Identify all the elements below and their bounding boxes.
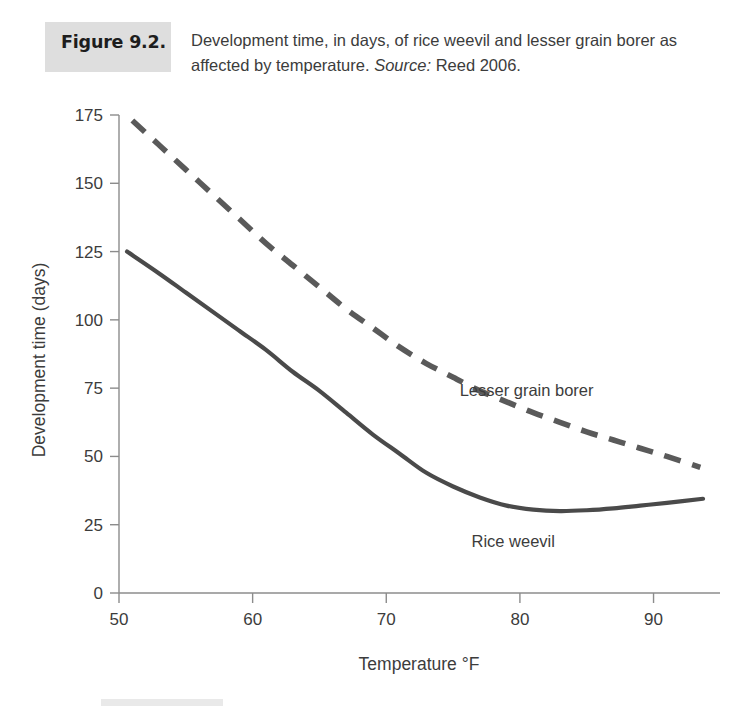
x-tick-label: 90 bbox=[644, 610, 663, 629]
x-axis: 5060708090 bbox=[110, 593, 720, 629]
y-tick-label: 0 bbox=[94, 584, 103, 603]
page-artifact bbox=[101, 699, 223, 706]
series-line-rice-weevil bbox=[127, 252, 703, 512]
y-tick-label: 50 bbox=[84, 447, 103, 466]
x-tick-label: 80 bbox=[510, 610, 529, 629]
y-tick-label: 25 bbox=[84, 516, 103, 535]
series-line-lesser-grain-borer bbox=[132, 120, 700, 467]
x-axis-title: Temperature °F bbox=[359, 654, 480, 674]
series-label-rice-weevil: Rice weevil bbox=[472, 532, 555, 550]
chart-canvas: 0255075100125150175 5060708090 Lesser gr… bbox=[0, 0, 755, 708]
y-tick-label: 100 bbox=[75, 311, 103, 330]
x-tick-label: 50 bbox=[110, 610, 129, 629]
series-label-group: Lesser grain borerRice weevil bbox=[460, 381, 594, 549]
y-tick-label: 175 bbox=[75, 106, 103, 125]
series-label-lesser-grain-borer: Lesser grain borer bbox=[460, 381, 594, 399]
x-tick-label: 70 bbox=[377, 610, 396, 629]
y-tick-label: 75 bbox=[84, 379, 103, 398]
y-tick-label: 150 bbox=[75, 174, 103, 193]
y-axis: 0255075100125150175 bbox=[75, 106, 119, 603]
x-tick-label: 60 bbox=[243, 610, 262, 629]
chart-series-group bbox=[127, 120, 703, 511]
line-chart: 0255075100125150175 5060708090 Lesser gr… bbox=[0, 0, 755, 708]
y-axis-title: Development time (days) bbox=[29, 263, 49, 458]
y-tick-label: 125 bbox=[75, 243, 103, 262]
